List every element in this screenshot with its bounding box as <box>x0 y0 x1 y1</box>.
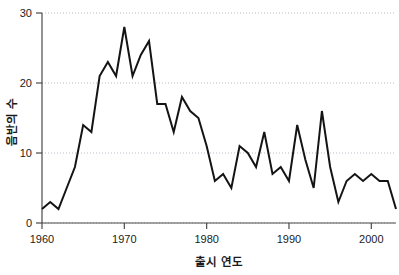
chart-container: 0102030 19601970198019902000 출시 연도 음반의 수 <box>0 0 399 275</box>
x-axis-title: 출시 연도 <box>195 255 242 268</box>
x-tick-label-1970: 1970 <box>112 233 136 245</box>
y-axis-title: 음반의 수 <box>5 98 18 145</box>
y-tick-label-30: 30 <box>20 7 32 19</box>
x-tick-label-1990: 1990 <box>277 233 301 245</box>
x-tick-label-1960: 1960 <box>30 233 54 245</box>
line-chart: 0102030 19601970198019902000 출시 연도 음반의 수 <box>0 0 399 275</box>
x-tick-label-2000: 2000 <box>359 233 383 245</box>
y-tick-label-10: 10 <box>20 147 32 159</box>
y-axis-ticks-group: 0102030 <box>20 7 42 229</box>
y-tick-label-20: 20 <box>20 77 32 89</box>
y-tick-label-0: 0 <box>26 217 32 229</box>
x-tick-label-1980: 1980 <box>194 233 218 245</box>
data-series-line <box>42 27 396 209</box>
x-axis-ticks-group: 19601970198019902000 <box>30 223 384 245</box>
